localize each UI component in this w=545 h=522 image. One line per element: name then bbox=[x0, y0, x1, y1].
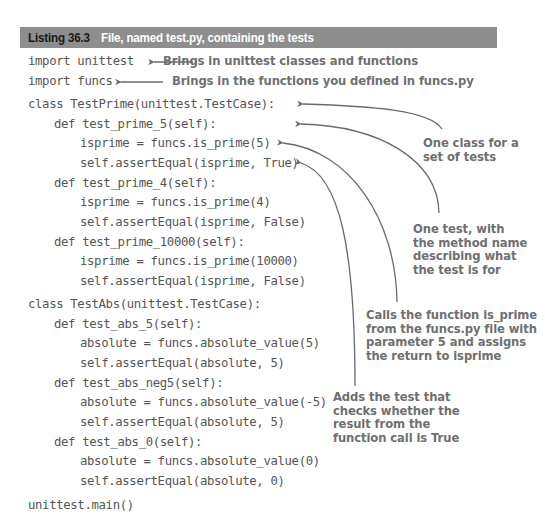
code-line: isprime = funcs.is_prime(4) bbox=[80, 195, 270, 209]
code-line: absolute = funcs.absolute_value(-5) bbox=[80, 395, 327, 409]
annotation-class: One class for a set of tests bbox=[423, 137, 519, 164]
code-line: def test_abs_neg5(self): bbox=[54, 376, 223, 390]
code-line: unittest.main() bbox=[28, 498, 134, 512]
code-line: def test_abs_0(self): bbox=[54, 435, 202, 449]
annotation-test-method: One test, with the method name describin… bbox=[413, 223, 527, 277]
code-line: self.assertEqual(isprime, False) bbox=[80, 274, 306, 288]
code-line: class TestPrime(unittest.TestCase): bbox=[28, 97, 275, 111]
annotation-import-unittest: Brings in unittest classes and functions bbox=[163, 55, 418, 69]
code-line: def test_prime_4(self): bbox=[54, 176, 216, 190]
code-line: self.assertEqual(absolute, 5) bbox=[80, 356, 285, 370]
code-line: isprime = funcs.is_prime(5) bbox=[80, 136, 270, 150]
code-line: isprime = funcs.is_prime(10000) bbox=[80, 254, 299, 268]
code-line: self.assertEqual(absolute, 0) bbox=[80, 474, 285, 488]
code-line: def test_abs_5(self): bbox=[54, 317, 202, 331]
code-line: import unittest bbox=[28, 54, 134, 68]
annotation-import-funcs: Brings in the functions you defined in f… bbox=[172, 75, 474, 89]
code-line: self.assertEqual(isprime, False) bbox=[80, 215, 306, 229]
code-line: absolute = funcs.absolute_value(0) bbox=[80, 454, 320, 468]
code-line: self.assertEqual(absolute, 5) bbox=[80, 415, 285, 429]
code-line: def test_prime_5(self): bbox=[54, 117, 216, 131]
code-line: class TestAbs(unittest.TestCase): bbox=[28, 297, 261, 311]
code-line: import funcs bbox=[28, 74, 113, 88]
code-line: def test_prime_10000(self): bbox=[54, 235, 244, 249]
annotation-call-function: Calls the function is_prime from the fun… bbox=[366, 309, 537, 363]
code-line: self.assertEqual(isprime, True) bbox=[80, 156, 299, 170]
code-line: absolute = funcs.absolute_value(5) bbox=[80, 336, 320, 350]
annotation-assert-test: Adds the test that checks whether the re… bbox=[333, 391, 460, 445]
